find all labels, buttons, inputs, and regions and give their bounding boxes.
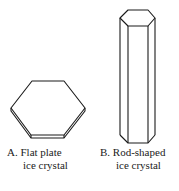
caption-letter: B.: [100, 146, 110, 158]
rod-crystal-drawing: [120, 10, 155, 143]
caption-rod-shaped: B. Rod-shaped ice crystal: [100, 146, 165, 172]
caption-title-line2: ice crystal: [100, 159, 165, 172]
caption-letter: A.: [7, 146, 18, 158]
flat-plate-crystal-drawing: [11, 81, 85, 138]
caption-title-line1: Flat plate: [20, 146, 61, 158]
caption-flat-plate: A. Flat plate ice crystal: [7, 146, 68, 172]
caption-title-line1: Rod-shaped: [113, 146, 166, 158]
caption-title-line2: ice crystal: [7, 159, 68, 172]
